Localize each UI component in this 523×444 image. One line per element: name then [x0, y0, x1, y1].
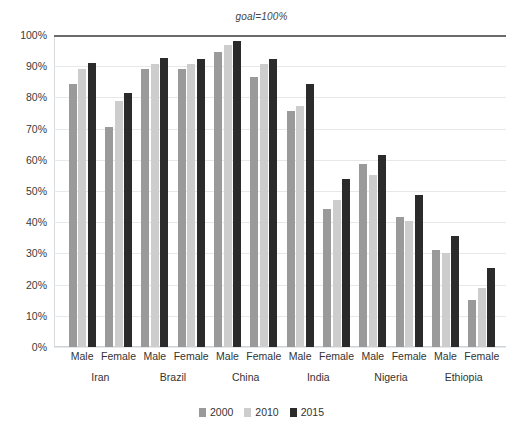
y-axis-tick-label: 90%: [5, 60, 47, 72]
y-axis-tick-label: 50%: [5, 185, 47, 197]
bar: [451, 236, 459, 347]
bar: [323, 209, 331, 347]
y-axis-tick-label: 80%: [5, 91, 47, 103]
x-axis-subgroup-label: Female: [464, 350, 499, 362]
x-axis-subgroup-label: Female: [319, 350, 354, 362]
x-axis-group-label: Iran: [91, 371, 109, 383]
x-axis-subgroup-label: Male: [289, 350, 312, 362]
bar: [124, 93, 132, 347]
bar: [141, 69, 149, 347]
plot-area: [54, 35, 506, 347]
y-axis-tick-label: 100%: [5, 29, 47, 41]
bar: [487, 268, 495, 347]
bar: [296, 106, 304, 347]
x-axis-labels: MaleFemaleMaleFemaleMaleFemaleMaleFemale…: [54, 350, 506, 394]
bar-chart: goal=100% 100%90%80%70%60%50%40%30%20%10…: [0, 0, 523, 444]
bar: [306, 84, 314, 347]
bar: [333, 200, 341, 347]
bar: [342, 179, 350, 347]
bar: [160, 58, 168, 347]
x-axis-group-label: Brazil: [160, 371, 186, 383]
legend-swatch-icon: [199, 408, 206, 417]
legend-label: 2000: [210, 406, 233, 418]
bar: [269, 59, 277, 347]
bar: [442, 253, 450, 347]
bar: [468, 300, 476, 347]
gridline: [54, 347, 506, 348]
bar: [178, 69, 186, 347]
legend-label: 2010: [255, 406, 278, 418]
legend-item[interactable]: 2000: [199, 406, 233, 418]
x-axis-subgroup-label: Female: [246, 350, 281, 362]
x-axis-subgroup-label: Male: [216, 350, 239, 362]
y-axis-tick-label: 40%: [5, 216, 47, 228]
bar: [214, 52, 222, 347]
bar: [224, 45, 232, 347]
goal-annotation-label: goal=100%: [0, 11, 523, 22]
legend-label: 2015: [301, 406, 324, 418]
x-axis-group-label: Nigeria: [374, 371, 407, 383]
x-axis-group-label: Ethiopia: [445, 371, 483, 383]
bar: [287, 111, 295, 347]
bar: [233, 41, 241, 347]
y-axis-tick-label: 70%: [5, 123, 47, 135]
legend-item[interactable]: 2015: [290, 406, 324, 418]
legend-item[interactable]: 2010: [244, 406, 278, 418]
bar: [115, 101, 123, 347]
bar: [405, 221, 413, 347]
x-axis-subgroup-label: Male: [71, 350, 94, 362]
bar: [432, 250, 440, 347]
bar: [250, 77, 258, 347]
x-axis-subgroup-label: Female: [101, 350, 136, 362]
bar: [69, 84, 77, 347]
x-axis-group-label: China: [232, 371, 259, 383]
x-axis-group-label: India: [307, 371, 330, 383]
bar: [378, 155, 386, 348]
x-axis-subgroup-label: Female: [174, 350, 209, 362]
bars-layer: [54, 35, 506, 347]
bar: [197, 59, 205, 347]
bar: [105, 127, 113, 347]
bar: [478, 288, 486, 347]
bar: [359, 164, 367, 347]
x-axis-subgroup-label: Male: [434, 350, 457, 362]
y-axis-tick-label: 10%: [5, 310, 47, 322]
y-axis-tick-label: 30%: [5, 247, 47, 259]
legend-swatch-icon: [290, 408, 297, 417]
x-axis-subgroup-label: Male: [143, 350, 166, 362]
y-axis-tick-label: 0%: [5, 341, 47, 353]
y-axis-tick-label: 60%: [5, 154, 47, 166]
bar: [369, 175, 377, 347]
bar: [88, 63, 96, 347]
bar: [260, 64, 268, 347]
x-axis-subgroup-label: Male: [361, 350, 384, 362]
bar: [151, 64, 159, 347]
bar: [396, 217, 404, 347]
bar: [78, 69, 86, 347]
x-axis-subgroup-label: Female: [392, 350, 427, 362]
bar: [187, 64, 195, 347]
legend-swatch-icon: [244, 408, 251, 417]
bar: [415, 195, 423, 347]
y-axis-tick-label: 20%: [5, 279, 47, 291]
chart-legend: 200020102015: [0, 406, 523, 418]
